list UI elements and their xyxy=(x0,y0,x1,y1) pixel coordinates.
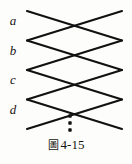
ellipsis-dot-2 xyxy=(68,121,71,124)
ellipsis-dot-1 xyxy=(68,114,71,117)
caption-mark-glyph: 圖 xyxy=(48,139,59,152)
crossing-lines-diagram xyxy=(0,0,132,136)
figure-caption: 圖4-15 xyxy=(0,137,132,153)
vertical-ellipsis xyxy=(68,114,71,131)
line-segments-group xyxy=(27,11,122,129)
ellipsis-dot-3 xyxy=(68,128,71,131)
figure-container: a b c d 圖4-15 xyxy=(0,0,132,164)
caption-number: 4-15 xyxy=(59,137,85,152)
